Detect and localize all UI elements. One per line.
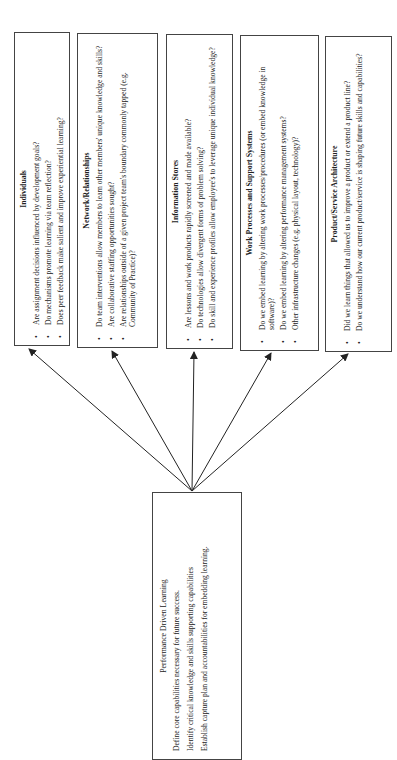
arrow-to-individuals	[29, 349, 192, 491]
list-item: Do technologies allow divergent forms of…	[196, 41, 205, 342]
root-line: Identify critical knowledge and skills s…	[186, 501, 195, 751]
list-item: Are relationships outside of a given pro…	[119, 40, 137, 341]
list-item: Do skill and experience profiles allow e…	[208, 41, 217, 342]
list-item: Are collaborative staffing opportunities…	[107, 40, 116, 341]
box-product-service-architecture: Product/Service Architecture Did we lear…	[325, 36, 392, 352]
root-line: Establish capture plan and accountabilit…	[200, 501, 209, 751]
list-item: Do mechanisms promote learning via team …	[44, 39, 53, 339]
list-item: Did we learn things that allowed us to i…	[343, 43, 352, 345]
box-individuals: Individuals Are assignment decisions inf…	[14, 32, 70, 346]
list-item: Are assignment decisions influenced by d…	[32, 39, 41, 339]
bullet-list: Did we learn things that allowed us to i…	[343, 43, 364, 345]
arrow-to-network	[112, 351, 192, 491]
root-title: Performance Driven Learning	[159, 501, 168, 751]
list-item: Are lessons and work products rapidly sc…	[184, 41, 193, 342]
bullet-list: Are assignment decisions influenced by d…	[32, 39, 65, 339]
list-item: Do we embed learning by altering work pr…	[258, 42, 276, 344]
arrow-to-work-processes	[192, 353, 271, 491]
box-work-processes: Work Processes and Support Systems Do we…	[240, 35, 319, 351]
box-title: Network/Relationships	[82, 40, 91, 341]
box-performance-driven-learning: Performance Driven Learning Define core …	[152, 492, 242, 760]
bullet-list: Are lessons and work products rapidly sc…	[184, 41, 217, 342]
bullet-list: Do team interventions allow members to l…	[95, 40, 137, 341]
box-information-stores: Information Stores Are lessons and work …	[166, 34, 233, 349]
box-title: Information Stores	[171, 41, 180, 342]
box-title: Individuals	[19, 39, 28, 339]
list-item: Do team interventions allow members to l…	[95, 40, 104, 341]
list-item: Do we understand how our current product…	[355, 43, 364, 345]
root-line: Define core capabilities necessary for f…	[172, 501, 181, 751]
list-item: Other infrastructure changes (e.g. physi…	[291, 42, 300, 344]
list-item: Does peer feedback make salient and impr…	[56, 39, 65, 339]
bullet-list: Do we embed learning by altering work pr…	[258, 42, 300, 344]
box-network-relationships: Network/Relationships Do team interventi…	[77, 33, 158, 348]
arrow-to-product-architecture	[192, 354, 348, 491]
box-title: Product/Service Architecture	[330, 43, 339, 345]
list-item: Do we embed learning by altering perform…	[279, 42, 288, 344]
box-title: Work Processes and Support Systems	[245, 42, 254, 344]
arrow-to-information-stores	[192, 352, 194, 491]
